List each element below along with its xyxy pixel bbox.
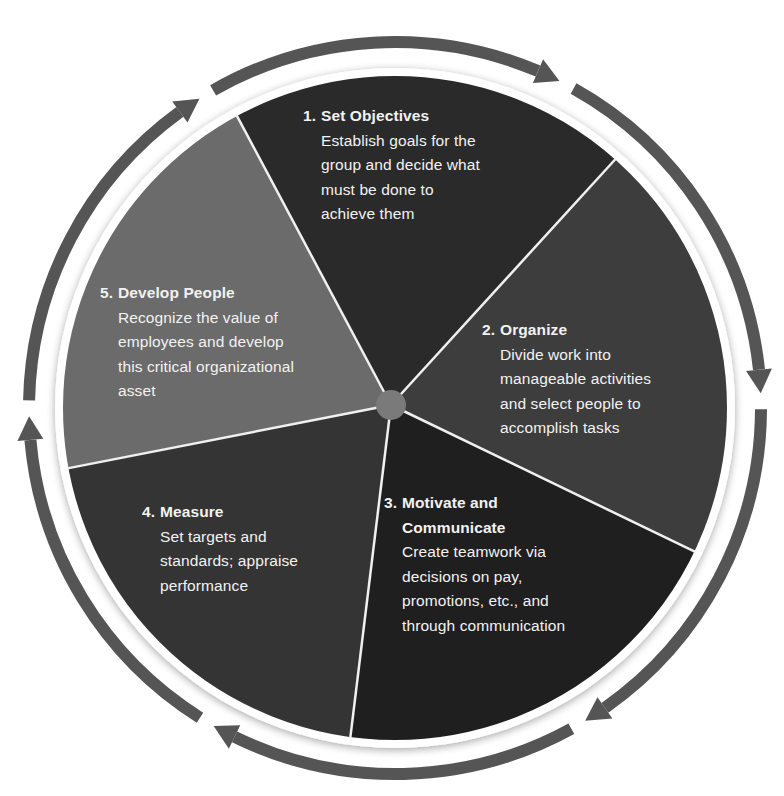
arrowhead-icon — [17, 416, 43, 441]
step-4-title: 4.Measure — [142, 500, 298, 525]
step-1-desc-line: must be done to — [303, 178, 480, 203]
step-2-desc-line: manageable activities — [482, 367, 651, 392]
step-5-desc-line: Recognize the value of — [100, 306, 294, 331]
step-2-desc-line: and select people to — [482, 392, 651, 417]
step-5-title: 5.Develop People — [100, 281, 294, 306]
step-5-label: 5.Develop People Recognize the value of … — [100, 281, 294, 404]
step-5-desc-line: asset — [100, 379, 294, 404]
step-2-desc-line: Divide work into — [482, 343, 651, 368]
step-4-desc-line: performance — [142, 574, 298, 599]
step-1-desc-line: achieve them — [303, 202, 480, 227]
management-cycle-diagram: 1.Set Objectives Establish goals for the… — [0, 0, 784, 796]
step-1-title: 1.Set Objectives — [303, 104, 480, 129]
step-3-desc-line: promotions, etc., and — [384, 589, 565, 614]
step-2-title: 2.Organize — [482, 318, 651, 343]
step-3-desc-line: through communication — [384, 614, 565, 639]
step-3-desc-line: Create teamwork via — [384, 540, 565, 565]
step-3-title: 3.Motivate and — [384, 491, 565, 516]
step-1-desc-line: group and decide what — [303, 153, 480, 178]
step-1-desc-line: Establish goals for the — [303, 129, 480, 154]
arrowhead-icon — [746, 368, 772, 393]
step-2-desc-line: accomplish tasks — [482, 416, 651, 441]
step-4-label: 4.Measure Set targets and standards; app… — [142, 500, 298, 598]
step-3-label: 3.Motivate and Communicate Create teamwo… — [384, 491, 565, 638]
step-4-desc-line: Set targets and — [142, 525, 298, 550]
step-2-label: 2.Organize Divide work into manageable a… — [482, 318, 651, 441]
center-hub — [376, 390, 406, 420]
step-3-desc-line: decisions on pay, — [384, 565, 565, 590]
step-5-desc-line: this critical organizational — [100, 355, 294, 380]
step-4-desc-line: standards; appraise — [142, 549, 298, 574]
step-1-label: 1.Set Objectives Establish goals for the… — [303, 104, 480, 227]
step-5-desc-line: employees and develop — [100, 330, 294, 355]
step-3-title-cont: Communicate — [384, 516, 565, 541]
